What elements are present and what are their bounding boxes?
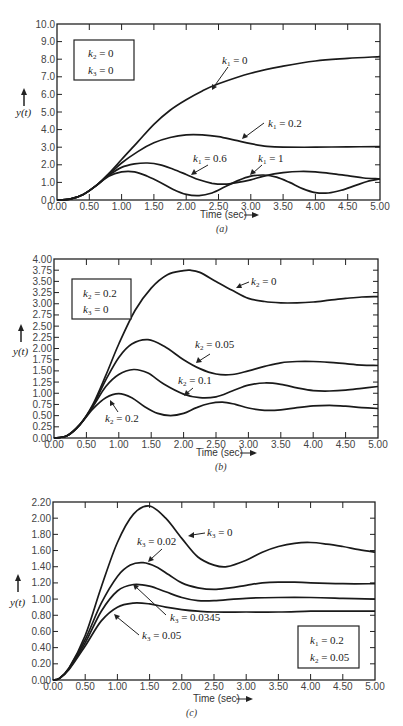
y-tick-label: 0.80: [32, 610, 52, 621]
y-tick-label: 0.00: [33, 433, 53, 444]
chart-c: 0.000.501.001.502.002.503.003.504.004.50…: [9, 497, 385, 720]
chart-a-arrow-k1-0: [213, 67, 228, 88]
y-tick-label: 0.50: [33, 410, 53, 421]
y-tick-label: 2.75: [33, 309, 53, 320]
chart-a-xlabel: Time (sec): [200, 209, 247, 220]
chart-a-label-k1-02: k1 = 0.2: [268, 117, 302, 131]
chart-a-label-k1-1: k1 = 1: [258, 152, 284, 166]
y-tick-label: 5.0: [41, 107, 55, 118]
y-tick-label: 8.0: [41, 54, 55, 65]
chart-c-label-k3-002: k3 = 0.02: [137, 535, 176, 549]
curve-k201: [54, 369, 378, 438]
x-tick-label: 3.50: [273, 201, 293, 212]
y-tick-label: 2.25: [33, 332, 53, 343]
chart-a-label-k1-06: k1 = 0.6: [193, 152, 227, 166]
y-tick-label: 2.20: [32, 497, 52, 508]
y-tick-label: 1.0: [41, 177, 55, 188]
arrowhead-icon: [188, 532, 194, 538]
chart-a-ylabel: y(t): [15, 106, 32, 119]
x-tick-label: 3.00: [236, 681, 256, 692]
y-tick-label: 4.00: [33, 254, 53, 265]
chart-a-arrow-k1-06: [194, 165, 208, 173]
y-tick-label: 9.0: [41, 36, 55, 47]
x-tick-label: 1.50: [144, 201, 164, 212]
y-tick-label: 1.80: [32, 529, 52, 540]
arrowhead-icon: [250, 169, 256, 175]
y-tick-label: 1.00: [33, 388, 53, 399]
chart-b-box-k3: k3 = 0: [83, 303, 109, 317]
chart-a: 0.000.501.001.502.002.503.003.504.004.50…: [15, 19, 390, 236]
x-tick-label: 4.50: [336, 439, 356, 450]
chart-b-arrow-k2-005: [199, 354, 210, 361]
chart-a-box-k3: k3 = 0: [88, 64, 114, 78]
curve-k202: [54, 394, 378, 438]
y-tick-label: 2.00: [33, 343, 53, 354]
chart-a-box-k2: k2 = 0: [88, 47, 114, 61]
chart-c-caption: (c): [186, 707, 198, 719]
x-tick-label: 1.00: [109, 439, 129, 450]
chart-c-label-k3-00345: k3 = 0.0345: [170, 611, 221, 625]
x-tick-label: 2.00: [174, 439, 194, 450]
x-tick-label: 3.50: [269, 681, 289, 692]
arrow-up-icon: [21, 88, 27, 95]
y-tick-label: 3.0: [41, 142, 55, 153]
arrow-up-icon: [18, 324, 24, 331]
y-tick-label: 1.00: [32, 594, 52, 605]
y-tick-label: 3.50: [33, 276, 53, 287]
x-tick-label: 0.50: [75, 681, 95, 692]
x-tick-label: 1.00: [112, 201, 132, 212]
y-tick-label: 0.20: [32, 658, 52, 669]
y-tick-label: 1.75: [33, 354, 53, 365]
x-tick-label: 2.00: [172, 681, 192, 692]
chart-b: 0.000.501.001.502.002.503.003.504.004.50…: [12, 254, 388, 474]
y-tick-label: 0.25: [33, 421, 53, 432]
y-tick-label: 2.00: [32, 513, 52, 524]
y-tick-label: 2.0: [41, 159, 55, 170]
x-tick-label: 5.00: [365, 681, 385, 692]
chart-c-ylabel: y(t): [9, 596, 26, 609]
arrow-right-icon: [246, 696, 253, 702]
y-tick-label: 0.00: [32, 675, 52, 686]
x-tick-label: 4.00: [303, 439, 323, 450]
y-tick-label: 6.0: [41, 89, 55, 100]
y-tick-label: 7.0: [41, 71, 55, 82]
x-tick-label: 1.50: [140, 681, 160, 692]
chart-b-ylabel: y(t): [12, 345, 29, 358]
y-tick-label: 1.50: [33, 365, 53, 376]
x-tick-label: 4.50: [333, 681, 353, 692]
chart-b-xlabel: Time (sec): [196, 447, 243, 458]
x-tick-label: 0.50: [77, 439, 97, 450]
chart-c-arrow-k3-00345: [136, 587, 166, 615]
curve-k2005: [54, 340, 378, 438]
x-tick-label: 1.00: [108, 681, 128, 692]
chart-c-arrow-k3-005: [117, 617, 139, 635]
arrow-right-icon: [250, 450, 257, 456]
y-tick-label: 1.20: [32, 577, 52, 588]
chart-b-label-k2-005: k2 = 0.05: [195, 338, 235, 352]
y-tick-label: 4.0: [41, 124, 55, 135]
y-tick-label: 3.25: [33, 287, 53, 298]
y-tick-label: 3.00: [33, 298, 53, 309]
y-tick-label: 10.0: [36, 19, 56, 30]
chart-a-label-k1-0: k1 = 0: [222, 54, 248, 68]
x-tick-label: 5.00: [370, 201, 390, 212]
chart-b-label-k2-01: k2 = 0.1: [178, 374, 212, 388]
y-tick-label: 1.60: [32, 545, 52, 556]
x-tick-label: 5.00: [368, 439, 388, 450]
x-tick-label: 0.50: [80, 201, 100, 212]
x-tick-label: 3.50: [271, 439, 291, 450]
x-tick-label: 1.50: [141, 439, 161, 450]
chart-b-label-k2-02: k2 = 0.2: [105, 412, 139, 426]
chart-c-arrow-k3-002: [151, 549, 162, 559]
x-tick-label: 2.50: [204, 681, 224, 692]
arrow-up-icon: [15, 574, 21, 581]
chart-b-label-k2-0: k2 = 0: [251, 275, 277, 289]
arrow-right-icon: [252, 212, 259, 218]
x-tick-label: 4.00: [301, 681, 321, 692]
y-tick-label: 2.50: [33, 321, 53, 332]
chart-c-label-k3-005: k3 = 0.05: [142, 629, 182, 643]
chart-a-caption: (a): [216, 223, 228, 235]
arrowhead-icon: [110, 400, 115, 406]
y-tick-label: 0.40: [32, 642, 52, 653]
y-tick-label: 0.75: [33, 399, 53, 410]
